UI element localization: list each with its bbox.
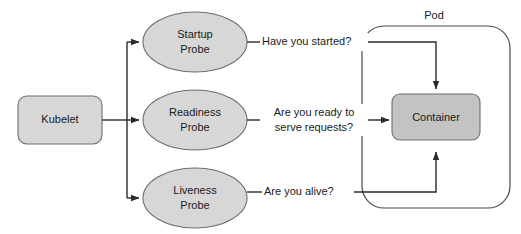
startup-probe-node: Startup Probe: [143, 12, 247, 72]
liveness-probe-label-line2: Probe: [180, 199, 209, 211]
startup-question-connectors: Have you started?: [247, 33, 436, 89]
liveness-question-label: Are you alive?: [264, 185, 334, 197]
probes-diagram: Kubelet Startup Probe Readiness Probe Li…: [0, 0, 521, 234]
startup-question-label: Have you started?: [262, 35, 351, 47]
startup-probe-label-line1: Startup: [177, 28, 212, 40]
liveness-probe-node: Liveness Probe: [143, 168, 247, 228]
kubelet-node: Kubelet: [18, 96, 102, 144]
liveness-probe-label-line1: Liveness: [173, 184, 217, 196]
connector-liveness-to-container: [354, 152, 436, 192]
kubelet-label: Kubelet: [41, 113, 78, 125]
startup-probe-label-line2: Probe: [180, 43, 209, 55]
readiness-probe-label-line1: Readiness: [169, 106, 221, 118]
readiness-probe-node: Readiness Probe: [143, 90, 247, 150]
readiness-question-label-line1: Are you ready to: [274, 106, 355, 118]
readiness-probe-label-line2: Probe: [180, 121, 209, 133]
readiness-question-label-line2: serve requests?: [275, 121, 353, 133]
container-node: Container: [392, 94, 480, 140]
kubelet-fanout-connectors: [102, 42, 139, 198]
connector-startup-to-container: [368, 42, 436, 89]
readiness-question-connectors: Are you ready to serve requests?: [247, 104, 389, 136]
pod-label: Pod: [424, 9, 444, 21]
diagram-canvas: Kubelet Startup Probe Readiness Probe Li…: [0, 0, 521, 234]
liveness-question-connectors: Are you alive?: [247, 152, 436, 201]
container-label: Container: [412, 111, 460, 123]
